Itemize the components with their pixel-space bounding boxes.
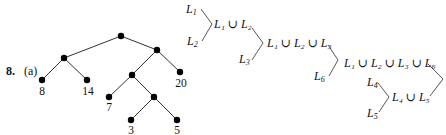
tree-leaf — [177, 69, 183, 75]
list-l4: L4 — [367, 76, 378, 90]
leaf-label-5: 5 — [174, 125, 180, 135]
tree-node-root — [118, 33, 124, 39]
bracket-l4-l5 — [378, 83, 389, 112]
bracket-l1-l2 — [201, 9, 212, 41]
tree-leaf — [39, 77, 45, 83]
union-l1-l2-l3: L₁ ∪ L₂ ∪ L₃ — [267, 37, 332, 49]
union-l1-l2-l3-l6: L₁ ∪ L₂ ∪ L₃ ∪ L₆ — [344, 57, 436, 69]
list-l6: L6 — [314, 70, 325, 84]
tree-leaf — [174, 117, 180, 123]
leaf-label-8: 8 — [39, 86, 45, 98]
list-l3: L3 — [239, 53, 250, 67]
list-l5: L5 — [367, 107, 378, 121]
tree-leaf — [106, 94, 112, 100]
tree-leaf — [128, 117, 134, 123]
union-l1-l2: L₁ ∪ L₂ — [214, 18, 252, 30]
problem-part: (a) — [24, 65, 37, 77]
list-l1: L1 — [186, 3, 197, 17]
tree-node — [154, 47, 160, 53]
leaf-label-14: 14 — [82, 86, 94, 98]
union-l4-l5: L₄ ∪ L₅ — [392, 91, 430, 103]
bracket-l12-l3 — [252, 28, 263, 60]
list-l2: L2 — [187, 35, 198, 49]
leaf-label-20: 20 — [175, 78, 187, 90]
tree-node — [129, 72, 135, 78]
tree-node — [151, 94, 157, 100]
leaf-label-3: 3 — [128, 125, 134, 135]
tree-node — [61, 55, 67, 61]
leaf-label-7: 7 — [106, 102, 112, 114]
problem-number: 8. — [6, 65, 15, 77]
tree-leaf — [84, 77, 90, 83]
